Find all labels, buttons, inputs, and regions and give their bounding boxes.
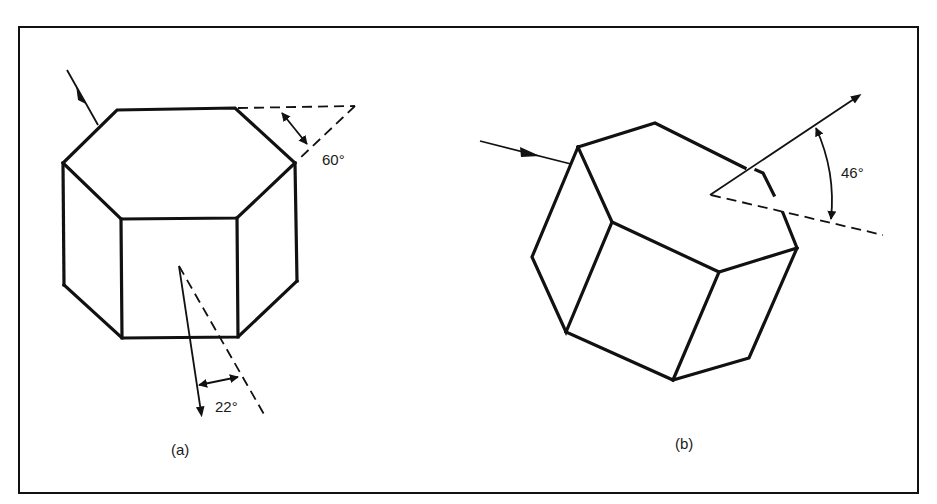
angle-label-46: 46° bbox=[841, 164, 864, 181]
caption-b: (b) bbox=[675, 435, 693, 452]
angle-label-22: 22° bbox=[215, 398, 238, 415]
figure-frame bbox=[19, 27, 918, 493]
angle-label-60: 60° bbox=[322, 151, 345, 168]
halo-crystal-diagram: 60° 22° (a) bbox=[0, 0, 937, 504]
caption-a: (a) bbox=[171, 441, 189, 458]
